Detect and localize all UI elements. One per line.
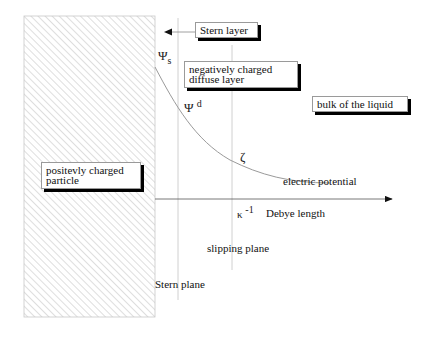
electric-double-layer-diagram: Stern layer negatively charged diffuse l… — [0, 0, 436, 337]
psi-glyph: Ψ — [184, 100, 194, 115]
diffuse-layer-text-2: diffuse layer — [189, 74, 293, 84]
psi-s-symbol: Ψs — [158, 48, 172, 66]
diffuse-layer-label: negatively charged diffuse layer — [184, 61, 298, 88]
slipping-plane-label: slipping plane — [207, 243, 269, 254]
kappa-glyph: κ — [237, 208, 243, 220]
psi-glyph: Ψ — [158, 48, 168, 63]
stern-plane-label: Stern plane — [155, 279, 205, 290]
psi-d-superscript: d — [197, 98, 202, 109]
debye-length-label: Debye length — [266, 208, 325, 219]
bulk-liquid-text: bulk of the liquid — [317, 98, 393, 110]
zeta-glyph: ζ — [240, 149, 245, 164]
arrow-head-icon — [164, 29, 172, 36]
psi-d-symbol: Ψ d — [184, 98, 202, 116]
bulk-liquid-label: bulk of the liquid — [312, 96, 408, 112]
electric-potential-label: electric potential — [283, 176, 357, 187]
psi-s-subscript: s — [168, 55, 172, 66]
zeta-symbol: ζ — [240, 149, 245, 165]
stern-layer-text: Stern layer — [200, 24, 248, 36]
kappa-inverse-symbol: κ -1 — [237, 204, 254, 220]
kappa-superscript: -1 — [245, 204, 253, 215]
stern-layer-label: Stern layer — [195, 22, 258, 38]
particle-label: positevly charged particle — [41, 162, 141, 189]
particle-text-2: particle — [46, 175, 136, 185]
